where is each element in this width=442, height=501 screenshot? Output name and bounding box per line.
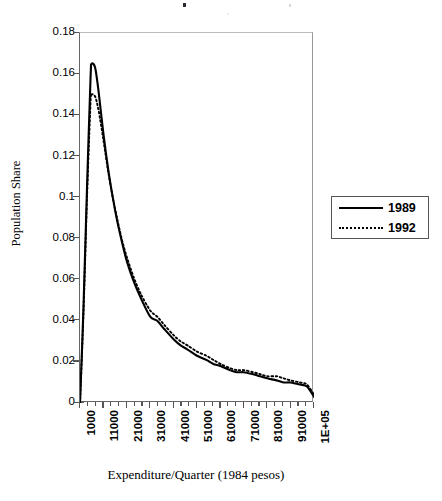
x-axis-minor-tick-mark bbox=[227, 402, 228, 406]
x-axis-minor-tick-mark bbox=[212, 402, 213, 406]
x-axis-minor-tick-mark bbox=[274, 402, 275, 406]
x-axis-tick-mark bbox=[243, 402, 244, 408]
y-axis-title: Population Share bbox=[9, 124, 24, 284]
x-axis-tick-label: 31000 bbox=[155, 410, 167, 442]
x-axis-tick-mark bbox=[313, 402, 314, 408]
x-axis-minor-tick-mark bbox=[165, 402, 166, 406]
x-axis-minor-tick-mark bbox=[87, 402, 88, 406]
x-axis-tick-mark bbox=[173, 402, 174, 408]
x-axis-tick-label: 41000 bbox=[179, 410, 191, 442]
x-axis-minor-tick-mark bbox=[157, 402, 158, 406]
x-axis-minor-tick-mark bbox=[282, 402, 283, 406]
x-axis-minor-tick-mark bbox=[305, 402, 306, 406]
x-axis-minor-tick-mark bbox=[188, 402, 189, 406]
scan-artifact bbox=[289, 4, 291, 7]
x-axis-minor-tick-mark bbox=[95, 402, 96, 406]
x-axis-tick-label: 71000 bbox=[249, 410, 261, 442]
x-axis-tick-mark bbox=[266, 402, 267, 408]
x-axis-tick-label: 21000 bbox=[132, 410, 144, 442]
x-axis-tick-label: 1E+05 bbox=[319, 410, 331, 444]
legend-swatch-solid-line-icon bbox=[339, 207, 383, 209]
x-axis-tick-mark bbox=[149, 402, 150, 408]
x-axis-minor-tick-mark bbox=[134, 402, 135, 406]
x-axis-minor-tick-mark bbox=[258, 402, 259, 406]
legend-label: 1992 bbox=[388, 222, 416, 235]
x-axis-tick-label: 91000 bbox=[296, 410, 308, 442]
legend-item-1992: 1992 bbox=[332, 218, 430, 238]
chart-figure: 00.020.040.060.080.10.120.140.160.18 Pop… bbox=[0, 0, 442, 501]
x-axis-tick-label: 11000 bbox=[108, 410, 120, 441]
x-axis-tick-mark bbox=[79, 402, 80, 408]
x-axis-minor-tick-mark bbox=[235, 402, 236, 406]
legend-item-1989: 1989 bbox=[332, 198, 430, 218]
plot-area bbox=[79, 32, 313, 402]
legend-label: 1989 bbox=[388, 202, 416, 215]
x-axis-tick-label: 81000 bbox=[272, 410, 284, 442]
x-axis-minor-tick-mark bbox=[118, 402, 119, 406]
x-axis-tick-mark bbox=[102, 402, 103, 408]
scan-artifact bbox=[227, 13, 229, 15]
x-axis-minor-tick-mark bbox=[251, 402, 252, 406]
x-axis-tick-label: 61000 bbox=[225, 410, 237, 442]
x-axis-tick-mark bbox=[290, 402, 291, 408]
x-axis-minor-tick-mark bbox=[141, 402, 142, 406]
x-axis-title: Expenditure/Quarter (1984 pesos) bbox=[0, 467, 392, 483]
x-axis-minor-tick-mark bbox=[297, 402, 298, 406]
scan-artifact bbox=[183, 3, 186, 7]
chart-legend: 1989 1992 bbox=[331, 196, 429, 239]
x-axis-tick-mark bbox=[196, 402, 197, 408]
x-axis-tick-label: 1000 bbox=[85, 410, 97, 436]
chart-curves bbox=[80, 33, 314, 403]
x-axis-minor-tick-mark bbox=[180, 402, 181, 406]
x-axis-tick-label: 51000 bbox=[202, 410, 214, 442]
x-axis-tick-mark bbox=[126, 402, 127, 408]
x-axis-minor-tick-mark bbox=[110, 402, 111, 406]
x-axis-minor-tick-mark bbox=[204, 402, 205, 406]
legend-swatch-dotted-line-icon bbox=[339, 227, 383, 229]
x-axis-tick-mark bbox=[219, 402, 220, 408]
